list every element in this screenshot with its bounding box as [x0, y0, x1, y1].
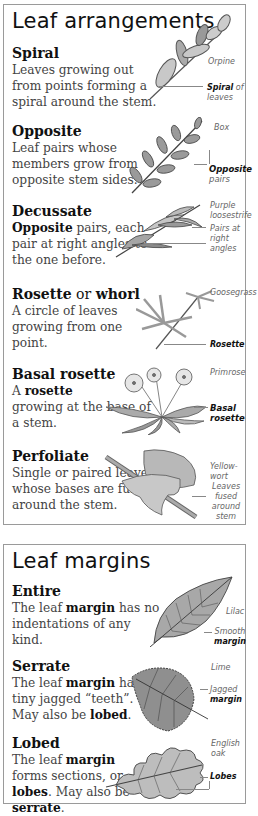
callout-label: Lobes: [210, 772, 237, 782]
callout-label: Leaves fused around stem: [211, 482, 241, 522]
entry-description: The leaf margin has no indentations of a…: [12, 600, 162, 648]
species-label: Lilac: [226, 607, 244, 617]
species-label: Box: [214, 123, 229, 133]
callout-label: Basal rosette: [210, 403, 246, 423]
goosegrass-rosette-illustration: [136, 287, 216, 351]
callout-label: Jaggedmargin: [210, 685, 246, 705]
entry-serrate: Serrate The leaf margin has tiny jagged …: [12, 658, 142, 723]
entry-description: Leaves growing out from points forming a…: [12, 62, 157, 110]
leader-line: [204, 632, 212, 633]
leaf-margins-panel: Leaf margins Entire The leaf margin has …: [3, 544, 246, 804]
leader-line: [159, 86, 203, 87]
leader-line: [144, 243, 206, 244]
leader-line: [176, 789, 209, 790]
leader-line: [192, 496, 206, 497]
primrose-basal-rosette-illustration: [102, 367, 210, 435]
leader-line: [194, 164, 207, 165]
entry-entire: Entire The leaf margin has no indentatio…: [12, 583, 162, 648]
entry-description: The leaf margin has tiny jagged “teeth”.…: [12, 675, 142, 723]
callout-label: Rosette: [210, 340, 245, 350]
leader-line: [200, 689, 208, 690]
species-label: Orpine: [208, 57, 235, 67]
entry-spiral: Spiral Leaves growing out from points fo…: [12, 45, 157, 110]
panel-title: Leaf margins: [12, 549, 151, 573]
lime-serrate-leaf-illustration: [128, 665, 212, 737]
leader-line: [164, 344, 206, 345]
callout-label: Smoothmargin: [212, 627, 248, 647]
entry-heading: Entire: [12, 583, 162, 600]
callout-label: Opposite pairs: [209, 164, 249, 184]
english-oak-lobed-leaf-illustration: [104, 741, 214, 803]
callout-label: Pairs at right angles: [210, 224, 240, 254]
leader-line: [209, 150, 210, 164]
leader-line: [194, 407, 208, 408]
species-label: Yellow-wort: [210, 462, 245, 482]
entry-heading: Serrate: [12, 658, 142, 675]
leaf-arrangements-panel: Leaf arrangements Spiral Leaves growing …: [3, 4, 246, 525]
leader-line: [192, 227, 206, 228]
callout-label: Spiral of leaves: [207, 83, 247, 103]
entry-heading: Spiral: [12, 45, 157, 62]
leader-line: [209, 781, 210, 789]
leader-line: [200, 777, 208, 778]
species-label: Purple loosestrife: [210, 201, 250, 221]
species-label: Primrose: [210, 368, 245, 378]
species-label: Goosegrass: [210, 288, 257, 298]
species-label: English oak: [211, 739, 243, 759]
species-label: Lime: [211, 663, 230, 673]
box-opposite-illustration: [122, 117, 212, 197]
purple-loosestrife-decussate-illustration: [114, 201, 206, 259]
yellow-wort-perfoliate-illustration: [102, 449, 202, 521]
